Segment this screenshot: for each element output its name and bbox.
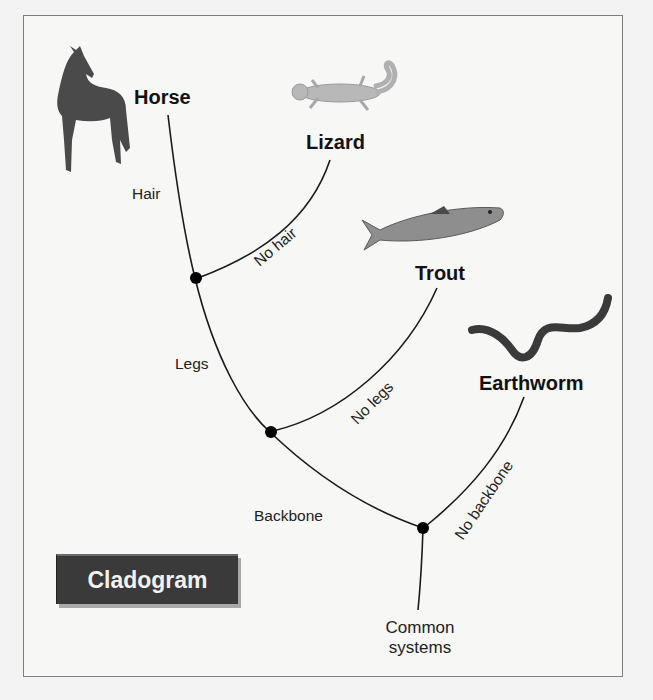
node-backbone [417, 522, 429, 534]
title-badge: Cladogram [56, 554, 238, 604]
trait-label-backbone: Backbone [254, 507, 323, 525]
trait-label-legs: Legs [175, 355, 209, 373]
root-label-line2: systems [360, 638, 480, 658]
node-legs [265, 426, 277, 438]
main-branch [168, 115, 423, 528]
root-branch [418, 528, 423, 610]
root-label: Common systems [360, 618, 480, 658]
earthworm-icon [472, 298, 608, 357]
taxon-label-horse: Horse [134, 86, 191, 109]
trait-label-hair: Hair [132, 185, 160, 203]
taxon-label-lizard: Lizard [306, 131, 365, 154]
node-hair [190, 272, 202, 284]
horse-icon [57, 46, 130, 172]
root-label-line1: Common [360, 618, 480, 638]
taxon-label-earthworm: Earthworm [479, 372, 583, 395]
lizard-icon [292, 63, 395, 110]
taxon-label-trout: Trout [415, 262, 465, 285]
trout-icon [362, 206, 503, 250]
